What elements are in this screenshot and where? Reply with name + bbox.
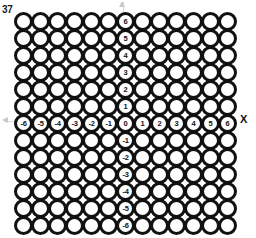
x-axis-left-arrow-icon xyxy=(2,117,8,123)
tick-label: -3 xyxy=(119,168,132,181)
tick-label: 5 xyxy=(204,117,217,130)
tick-label: 3 xyxy=(170,117,183,130)
tick-label: -1 xyxy=(102,117,115,130)
tick-label: 5 xyxy=(119,32,132,45)
tick-label: -4 xyxy=(119,185,132,198)
tick-label: -1 xyxy=(119,134,132,147)
tick-label: 2 xyxy=(119,83,132,96)
y-tick-ring: -6 xyxy=(116,216,135,235)
tick-label: 1 xyxy=(136,117,149,130)
tick-label: -3 xyxy=(68,117,81,130)
y-axis-up-arrow-icon xyxy=(119,1,125,7)
lattice-ring xyxy=(218,216,237,235)
tick-label: 3 xyxy=(119,66,132,79)
x-axis-label: X xyxy=(240,114,247,125)
problem-number: 37 xyxy=(2,5,13,15)
tick-label: 6 xyxy=(221,117,234,130)
tick-label: 2 xyxy=(153,117,166,130)
tick-label: -2 xyxy=(85,117,98,130)
tick-label: -5 xyxy=(34,117,47,130)
tick-label: -6 xyxy=(17,117,30,130)
tick-label: 4 xyxy=(119,49,132,62)
coordinate-grid-figure: 37 654321-6-5-4-3-2-10123456-1-2-3-4-5-6… xyxy=(0,0,256,238)
ring-lattice: 654321-6-5-4-3-2-10123456-1-2-3-4-5-6 xyxy=(14,12,226,224)
tick-label: 6 xyxy=(119,15,132,28)
tick-label: -2 xyxy=(119,151,132,164)
tick-label: -5 xyxy=(119,202,132,215)
tick-label: -6 xyxy=(119,219,132,232)
tick-label: -4 xyxy=(51,117,64,130)
tick-label: 0 xyxy=(119,117,132,130)
x-tick-ring: 6 xyxy=(218,114,237,133)
tick-label: 1 xyxy=(119,100,132,113)
tick-label: 4 xyxy=(187,117,200,130)
